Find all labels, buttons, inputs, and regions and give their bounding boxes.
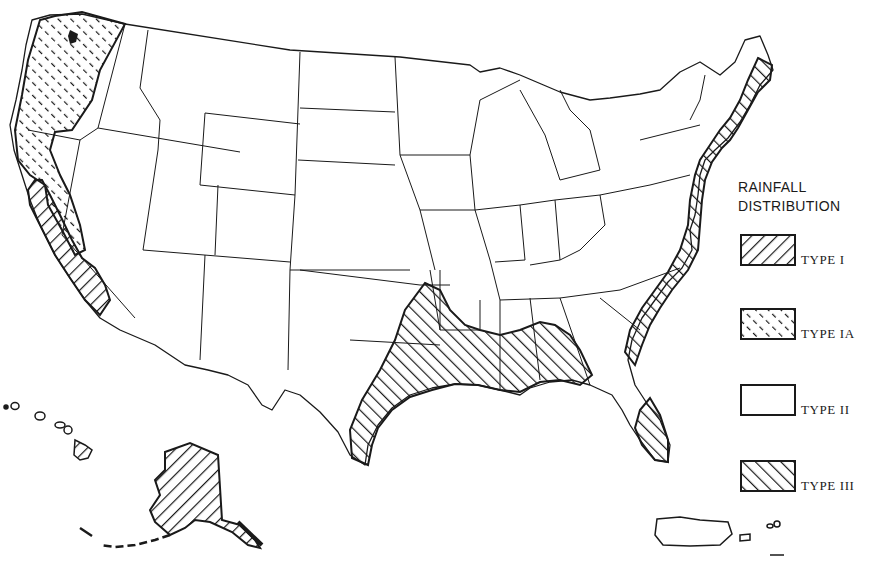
type-ia-dashed-hatch-swatch (740, 308, 796, 340)
legend-item-type-ia: TYPE IA (740, 308, 875, 348)
legend-label-type-ia: TYPE IA (801, 326, 855, 342)
legend-title-line1: RAINFALL (738, 178, 840, 197)
legend-title-line2: DISTRIBUTION (738, 197, 840, 216)
legend-label-type-iii: TYPE III (801, 478, 855, 494)
legend-label-type-ii: TYPE II (801, 402, 850, 418)
type-ii-blank-swatch (740, 384, 796, 416)
legend-title: RAINFALL DISTRIBUTION (738, 178, 840, 216)
legend-item-type-ii: TYPE II (740, 384, 875, 424)
legend-item-type-i: TYPE I (740, 234, 875, 274)
puerto-rico (655, 517, 784, 555)
hawaii (4, 403, 92, 461)
legend-label-type-i: TYPE I (801, 252, 845, 268)
type-i-forward-hatch-swatch (740, 234, 796, 266)
legend-item-type-iii: TYPE III (740, 460, 875, 500)
type-iii-backward-hatch-swatch (740, 460, 796, 492)
alaska (80, 443, 262, 548)
